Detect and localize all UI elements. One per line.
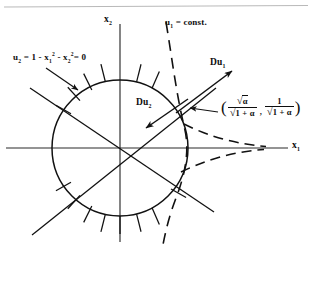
fraction-second-numerator: 1: [275, 97, 283, 106]
fraction-first-numerator: √α: [235, 96, 250, 107]
axis-label-x2: x2: [104, 14, 112, 24]
fraction-first: √α √1 + α: [228, 96, 257, 118]
figure-drawing: [0, 0, 312, 283]
figure-container: x2 x1 u1 = const. u2 = 1 - x12 - x22= 0 …: [0, 0, 312, 283]
line-gradient-u1-direction: [32, 88, 216, 235]
contour-asymptote-upper: [184, 124, 266, 147]
annotation-gradient-du2: Du2: [136, 97, 152, 107]
axis-label-x1: x1: [292, 140, 300, 150]
pointer-coordinate: [190, 108, 218, 112]
annotation-u1-const: u1 = const.: [165, 17, 207, 27]
contour-asymptote-lower: [181, 150, 264, 173]
fraction-second-denominator: √1 + α: [265, 107, 294, 118]
paren-open: (: [221, 99, 227, 116]
pointer-u2-equation: [46, 68, 78, 90]
top-divider: [4, 6, 308, 8]
annotation-intersection-coordinate: ( √α √1 + α , 1 √1 + α ): [221, 96, 301, 118]
coordinate-comma: ,: [258, 106, 264, 118]
fraction-first-denominator: √1 + α: [228, 108, 257, 119]
fraction-second: 1 √1 + α: [265, 97, 294, 117]
paren-close: ): [295, 99, 301, 116]
annotation-gradient-du1: Du1: [210, 57, 226, 67]
contour-u1-const: [162, 22, 187, 250]
annotation-u2-equation: u2 = 1 - x12 - x22= 0: [13, 52, 86, 62]
